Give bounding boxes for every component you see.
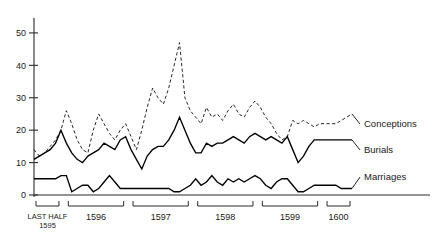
period-bracket bbox=[133, 201, 188, 206]
demographic-line-chart: 01020304050ConceptionsBurialsMarriagesLA… bbox=[0, 0, 437, 239]
period-group: LAST HALF1595 bbox=[28, 201, 68, 230]
label-leader-line bbox=[352, 177, 360, 189]
period-label: 1596 bbox=[86, 212, 106, 222]
period-label: 1599 bbox=[280, 212, 300, 222]
period-group: 1599 bbox=[262, 201, 317, 222]
chart-container: 01020304050ConceptionsBurialsMarriagesLA… bbox=[0, 0, 437, 239]
x-axis-period-groups: LAST HALF159515961597159815991600 bbox=[28, 201, 350, 230]
label-leader-line bbox=[352, 140, 360, 150]
period-bracket bbox=[68, 201, 123, 206]
period-bracket bbox=[262, 201, 317, 206]
period-bracket bbox=[198, 201, 253, 206]
period-label: 1600 bbox=[329, 212, 349, 222]
y-tick-label: 10 bbox=[16, 158, 26, 168]
period-label-line2: 1595 bbox=[39, 221, 56, 230]
period-label: 1597 bbox=[151, 212, 171, 222]
y-tick-label: 40 bbox=[16, 61, 26, 71]
series-label-burials: Burials bbox=[352, 140, 393, 156]
y-tick-label: 30 bbox=[16, 93, 26, 103]
label-leader-line bbox=[352, 114, 360, 124]
period-group: 1598 bbox=[198, 201, 253, 222]
y-tick-label: 50 bbox=[16, 28, 26, 38]
series-label-marriages-text: Marriages bbox=[364, 171, 406, 182]
series-label-conceptions-text: Conceptions bbox=[364, 118, 417, 129]
period-group: 1600 bbox=[327, 201, 350, 222]
y-tick-label: 0 bbox=[21, 190, 26, 200]
series-line-marriages bbox=[34, 176, 352, 192]
y-tick-label: 20 bbox=[16, 125, 26, 135]
series-label-marriages: Marriages bbox=[352, 171, 406, 188]
series-line-burials bbox=[34, 117, 352, 169]
period-group: 1596 bbox=[68, 201, 123, 222]
period-label: 1598 bbox=[215, 212, 235, 222]
series-label-conceptions: Conceptions bbox=[352, 114, 417, 129]
period-bracket bbox=[327, 201, 350, 206]
series-line-conceptions bbox=[34, 43, 352, 156]
period-bracket bbox=[36, 201, 59, 206]
period-label-line1: LAST HALF bbox=[28, 212, 68, 221]
series-label-burials-text: Burials bbox=[364, 144, 393, 155]
period-group: 1597 bbox=[133, 201, 188, 222]
